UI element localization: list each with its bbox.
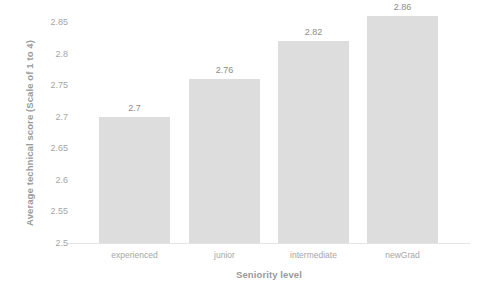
bar-value-label: 2.76 — [189, 65, 260, 75]
bar[interactable] — [367, 16, 438, 243]
bar[interactable] — [189, 79, 260, 243]
x-axis-category-label: junior — [189, 250, 260, 261]
x-axis-category-label: newGrad — [367, 250, 438, 261]
y-axis-tick-label: 2.55 — [30, 206, 68, 216]
x-axis-title: Seniority level — [68, 269, 470, 280]
y-axis-tick-label: 2.6 — [30, 175, 68, 185]
y-axis-tick-label: 2.85 — [30, 17, 68, 27]
y-axis-tick-label: 2.5 — [30, 238, 68, 248]
bar-value-label: 2.82 — [278, 27, 349, 37]
y-axis-tick-labels: 2.852.82.752.72.652.62.552.5 — [30, 0, 68, 297]
x-axis-line — [68, 243, 470, 244]
bar[interactable] — [278, 41, 349, 243]
plot-area — [68, 12, 470, 244]
bar-value-label: 2.7 — [99, 103, 170, 113]
y-axis-tick-label: 2.8 — [30, 49, 68, 59]
y-axis-tick-label: 2.7 — [30, 112, 68, 122]
x-axis-category-label: intermediate — [278, 250, 349, 261]
bar[interactable] — [99, 117, 170, 243]
y-axis-tick-label: 2.75 — [30, 80, 68, 90]
bar-value-label: 2.86 — [367, 2, 438, 12]
bar-chart: Average technical score (Scale of 1 to 4… — [0, 0, 501, 297]
x-axis-category-label: experienced — [99, 250, 170, 261]
y-axis-tick-label: 2.65 — [30, 143, 68, 153]
